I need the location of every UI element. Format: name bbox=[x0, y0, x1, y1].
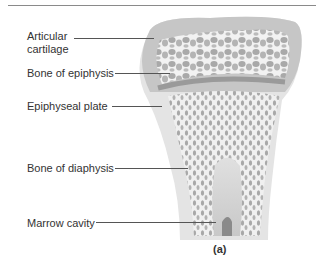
leader-bone-of-diaphysis bbox=[115, 168, 188, 169]
label-epiphyseal-plate: Epiphyseal plate bbox=[27, 100, 108, 113]
label-bone-of-diaphysis: Bone of diaphysis bbox=[27, 162, 114, 175]
label-articular-line2: cartilage bbox=[27, 43, 69, 55]
marrow-vessel bbox=[222, 217, 232, 236]
leader-marrow-cavity bbox=[96, 222, 216, 223]
label-articular-cartilage: Articular cartilage bbox=[27, 30, 69, 56]
leader-epiphyseal-plate bbox=[112, 106, 162, 107]
figure-caption: (a) bbox=[213, 243, 226, 255]
label-articular-line1: Articular bbox=[27, 30, 67, 42]
leader-bone-of-epiphysis bbox=[115, 73, 170, 74]
leader-articular-cartilage bbox=[74, 38, 154, 39]
label-bone-of-epiphysis: Bone of epiphysis bbox=[27, 67, 114, 80]
label-marrow-cavity: Marrow cavity bbox=[27, 217, 95, 230]
